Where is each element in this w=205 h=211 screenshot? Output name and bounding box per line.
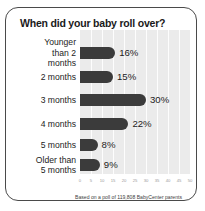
axis-tick-label: 50: [188, 178, 193, 183]
axis-tick-label: 5: [90, 178, 92, 183]
bar-value-label: 22%: [132, 118, 151, 129]
category-label: 4 months: [41, 119, 76, 130]
bar: [80, 94, 146, 106]
gridline: [146, 30, 147, 174]
chart-title: When did your baby roll over?: [20, 17, 165, 29]
bar-value-label: 15%: [117, 71, 136, 82]
bar: [80, 118, 128, 130]
axis-tick-label: 20: [122, 178, 127, 183]
axis-tick-label: 0: [79, 178, 81, 183]
value-axis-ticks: 05101520253035404550: [80, 178, 192, 187]
bar-value-label: 30%: [150, 94, 169, 105]
category-label: 2 months: [41, 72, 76, 83]
bar: [80, 159, 100, 171]
bar-value-label: 9%: [104, 159, 118, 170]
chart-footnote: Based on a poll of 119,808 BabyCenter pa…: [75, 194, 182, 200]
category-label: 5 months: [41, 140, 76, 151]
chart-plot-wrapper: Younger than 2 months2 months3 months4 m…: [14, 30, 190, 176]
bar-value-label: 8%: [102, 139, 116, 150]
bar-value-label: 16%: [119, 47, 138, 58]
axis-tick-label: 30: [144, 178, 149, 183]
category-axis-labels: Younger than 2 months2 months3 months4 m…: [14, 30, 78, 174]
category-label: 3 months: [41, 95, 76, 106]
axis-tick-label: 35: [155, 178, 160, 183]
axis-tick-label: 15: [111, 178, 116, 183]
category-label: Younger than 2 months: [44, 37, 76, 69]
axis-tick-label: 45: [177, 178, 182, 183]
axis-tick-label: 40: [166, 178, 171, 183]
chart-card: When did your baby roll over? Younger th…: [5, 7, 197, 201]
gridline: [179, 30, 180, 174]
plot-area: 16%15%30%22%8%9%: [80, 30, 190, 174]
axis-tick-label: 25: [133, 178, 138, 183]
category-label: Older than 5 months: [36, 155, 76, 176]
bar: [80, 139, 98, 151]
axis-tick-label: 10: [100, 178, 105, 183]
bar: [80, 47, 115, 59]
bar: [80, 71, 113, 83]
